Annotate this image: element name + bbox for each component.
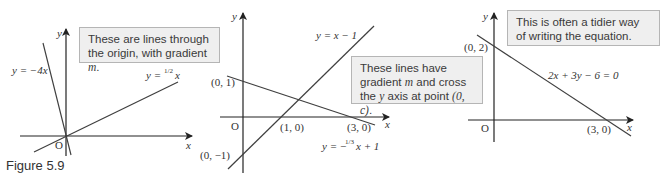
line-label-y-minus-third-x-plus-1: y = − 1/3 x + 1 xyxy=(321,138,379,152)
line-label-y-x-minus-1: y = x − 1 xyxy=(315,29,357,41)
point-0-minus-1: (0, −1) xyxy=(200,149,230,162)
point-1-0: (1, 0) xyxy=(280,121,304,134)
panel-3-origin-label: O xyxy=(481,122,489,134)
panel-2-origin-label: O xyxy=(231,120,239,132)
note-box-tidier-equation: This is often a tidier way of writing th… xyxy=(507,10,660,46)
point-3-0: (3, 0) xyxy=(347,121,371,134)
panel-3-x-label: x xyxy=(626,121,632,133)
point-0-1: (0, 1) xyxy=(211,76,235,89)
line-label-y-half-x: y = 1/2 x xyxy=(145,67,180,81)
svg-text:y = −: y = − xyxy=(321,140,347,152)
svg-text:x + 1: x + 1 xyxy=(355,140,379,152)
panel-2-y-label: y xyxy=(231,10,237,22)
point-3-0-panel-3: (3, 0) xyxy=(587,123,611,136)
svg-text:x: x xyxy=(174,69,180,81)
panel-1-origin-label: O xyxy=(55,139,63,151)
panel-1-y-label: y xyxy=(56,27,62,39)
svg-text:1/3: 1/3 xyxy=(345,138,354,146)
panel-3-y-label: y xyxy=(482,10,488,22)
svg-text:y =: y = xyxy=(145,69,161,81)
note-box-lines-through-origin: These are lines through the origin, with… xyxy=(79,27,220,63)
panel-1-x-label: x xyxy=(185,139,191,151)
panel-2-x-label: x xyxy=(384,118,390,130)
figure-caption: Figure 5.9 xyxy=(6,158,65,173)
line-2x-plus-3y-minus-6 xyxy=(477,35,631,136)
note-box-gradient-intercept: These lines have gradient m and cross th… xyxy=(351,56,483,104)
line-label-y-minus-4x: y = −4x xyxy=(11,64,48,76)
point-0-2: (0, 2) xyxy=(464,41,488,54)
svg-text:1/2: 1/2 xyxy=(164,67,173,75)
line-label-2x-plus-3y-minus-6: 2x + 3y − 6 = 0 xyxy=(548,69,619,81)
